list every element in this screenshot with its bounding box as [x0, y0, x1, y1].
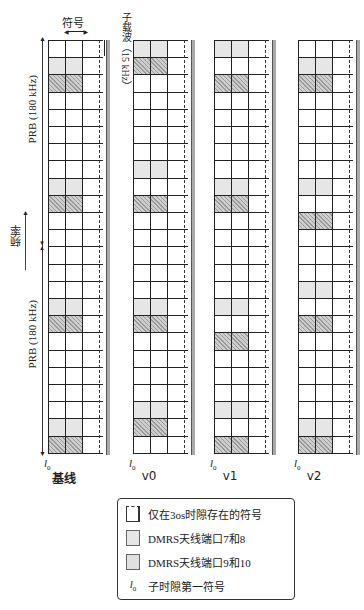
grid-row-line	[133, 418, 188, 419]
grid-col-line	[332, 40, 333, 453]
legend-item-port-7-8: DMRS天线端口7和8	[126, 529, 245, 547]
grid-row-line	[48, 246, 103, 247]
grid-row-line	[214, 40, 269, 41]
grid-row-line	[298, 436, 353, 437]
grid-row-line	[133, 229, 188, 230]
grid-row-line	[214, 74, 269, 75]
grid-row-line	[133, 281, 188, 282]
grid-row-line	[133, 212, 188, 213]
resource-grid-v1	[214, 40, 284, 453]
grid-row-line	[214, 350, 269, 351]
grid-row-line	[133, 160, 188, 161]
prb-label-upper: PRB (180 kHz)	[26, 75, 38, 143]
frequency-arrow: ▲	[25, 215, 26, 270]
grid-row-line	[298, 126, 353, 127]
grid-row-line	[133, 453, 188, 454]
grid-row-line	[214, 92, 269, 93]
grid-row-line	[214, 264, 269, 265]
hatched-swatch-icon	[126, 554, 140, 570]
resource-grid-v2	[298, 40, 364, 453]
subcarrier-label: 子载波（15 kHz）	[118, 12, 133, 91]
grid-row-line	[214, 281, 269, 282]
grid-row-line	[133, 57, 188, 58]
grid-row-line	[133, 178, 188, 179]
grid-row-line	[48, 332, 103, 333]
grid-row-line	[48, 401, 103, 402]
grid-row-line	[133, 264, 188, 265]
legend-item-3os-symbol: 仅在3os时隙存在的符号	[126, 505, 262, 523]
grid-row-line	[298, 367, 353, 368]
grid-row-line	[48, 212, 103, 213]
slot-boundary-line	[191, 40, 195, 455]
grid-row-line	[214, 109, 269, 110]
grid-row-line	[214, 401, 269, 402]
grid-row-line	[48, 315, 103, 316]
grid-row-line	[298, 57, 353, 58]
grid-row-line	[214, 143, 269, 144]
grid-row-line	[298, 40, 353, 41]
slot-boundary-line	[356, 40, 360, 455]
grid-row-line	[48, 264, 103, 265]
grid-row-line	[298, 281, 353, 282]
grid-row-line	[214, 57, 269, 58]
grid-row-line	[133, 298, 188, 299]
grid-row-line	[133, 401, 188, 402]
optional-symbol-dashed-line	[349, 40, 350, 453]
legend-item-port-9-10: DMRS天线端口9和10	[126, 553, 251, 571]
grid-row-line	[48, 40, 103, 41]
grid-row-line	[133, 40, 188, 41]
column-label-baseline: 基线	[44, 469, 84, 486]
grid-col-line	[167, 40, 168, 453]
grid-row-line	[133, 384, 188, 385]
grid-row-line	[48, 178, 103, 179]
legend-label: 子时隙第一符号	[148, 578, 225, 594]
grid-row-line	[48, 350, 103, 351]
optional-symbol-dashed-line	[99, 40, 100, 453]
grid-row-line	[214, 126, 269, 127]
grid-row-line	[133, 74, 188, 75]
grid-col-line	[231, 40, 232, 453]
grid-row-line	[48, 57, 103, 58]
grid-row-line	[48, 453, 103, 454]
grid-col-line	[298, 40, 299, 453]
grid-row-line	[298, 264, 353, 265]
grid-row-line	[133, 315, 188, 316]
grid-row-line	[214, 212, 269, 213]
legend-item-first-symbol: l0 子时隙第一符号	[126, 577, 225, 595]
optional-symbol-dashed-line	[184, 40, 185, 453]
grid-row-line	[48, 298, 103, 299]
grid-row-line	[48, 160, 103, 161]
grid-row-line	[298, 143, 353, 144]
grid-row-line	[214, 384, 269, 385]
grid-row-line	[48, 195, 103, 196]
grid-col-line	[214, 40, 215, 453]
grid-row-line	[214, 160, 269, 161]
grid-row-line	[298, 418, 353, 419]
grid-row-line	[298, 315, 353, 316]
legend-label: DMRS天线端口9和10	[148, 554, 251, 570]
grid-col-line	[248, 40, 249, 453]
grid-row-line	[298, 298, 353, 299]
grid-row-line	[214, 332, 269, 333]
grid-col-line	[48, 40, 49, 453]
grid-row-line	[214, 178, 269, 179]
grid-row-line	[48, 436, 103, 437]
grid-row-line	[298, 160, 353, 161]
grid-row-line	[48, 418, 103, 419]
grid-row-line	[48, 367, 103, 368]
grid-row-line	[48, 92, 103, 93]
l0-symbol-icon: l0	[126, 578, 140, 593]
grid-row-line	[298, 109, 353, 110]
grid-row-line	[133, 143, 188, 144]
grid-row-line	[298, 74, 353, 75]
empty-symbol-swatch-icon	[126, 506, 140, 522]
grid-row-line	[48, 143, 103, 144]
grid-row-line	[214, 195, 269, 196]
light-gray-swatch-icon	[126, 530, 140, 546]
grid-row-line	[48, 384, 103, 385]
grid-col-line	[133, 40, 134, 453]
grid-row-line	[298, 178, 353, 179]
grid-row-line	[298, 195, 353, 196]
grid-row-line	[48, 126, 103, 127]
slot-boundary-line	[106, 40, 110, 455]
